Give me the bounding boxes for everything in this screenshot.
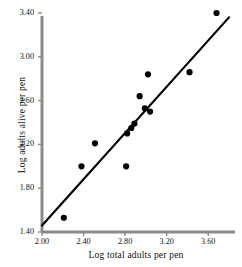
x-tick-label: 2.00 xyxy=(29,237,55,246)
data-point xyxy=(61,215,67,221)
plot-canvas xyxy=(0,0,242,267)
data-point xyxy=(213,10,219,16)
data-point xyxy=(123,163,129,169)
x-axis-title: Log total adults per pen xyxy=(0,250,242,260)
data-point xyxy=(186,69,192,75)
data-point xyxy=(147,108,153,114)
x-tick-label: 2.40 xyxy=(71,237,97,246)
x-tick-label: 2.80 xyxy=(112,237,138,246)
x-tick-label: 3.20 xyxy=(154,237,180,246)
y-tick-label: 3.40 xyxy=(8,8,34,17)
scatter-plot-figure: 3.403.002.602.201.801.40 2.002.402.803.2… xyxy=(0,0,242,267)
y-axis-title: Log adults alive per pen xyxy=(17,35,27,215)
data-point xyxy=(137,93,143,99)
data-point xyxy=(131,120,137,126)
x-tick-label: 3.60 xyxy=(195,237,221,246)
data-point xyxy=(92,140,98,146)
data-point xyxy=(145,71,151,77)
data-point xyxy=(78,163,84,169)
data-point xyxy=(124,130,130,136)
axes-group xyxy=(42,16,235,232)
data-point xyxy=(142,105,148,111)
y-tick-label: 1.40 xyxy=(8,227,34,236)
